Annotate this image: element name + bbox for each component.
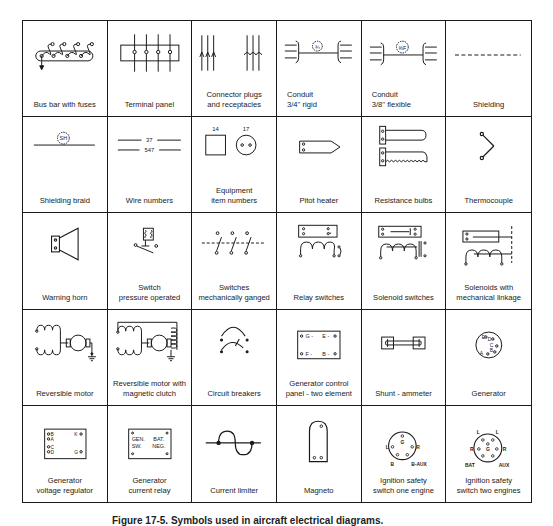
svg-text:¾: ¾ bbox=[315, 44, 320, 50]
cell-conduit-rigid: ¾ Conduit 3/4'' rigid bbox=[277, 21, 362, 117]
circuit-breakers-icon bbox=[192, 310, 276, 372]
symbol-label: Terminal panel bbox=[108, 100, 192, 110]
cell-generator-control-panel: G - E - F - B - Generator control panel … bbox=[277, 310, 362, 406]
symbol-label: Conduit 3/4'' rigid bbox=[277, 90, 361, 110]
symbol-label: Circuit breakers bbox=[192, 389, 276, 399]
cell-bus-bar-with-fuses: Bus bar with fuses bbox=[23, 21, 108, 117]
svg-text:R: R bbox=[503, 447, 507, 452]
current-limiter-icon bbox=[192, 406, 276, 468]
switches-mechanically-ganged-icon bbox=[192, 213, 276, 275]
cell-warning-horn: Warning horn bbox=[23, 213, 108, 309]
cell-generator: E D C B A Generator bbox=[446, 310, 531, 406]
cell-resistance-bulbs: Resistance bulbs bbox=[362, 117, 447, 213]
symbol-label: Switches mechanically ganged bbox=[192, 283, 276, 303]
solenoids-mechanical-linkage-icon bbox=[446, 213, 531, 275]
cell-connector-plugs: Connector plugs and receptacles bbox=[192, 21, 277, 117]
svg-text:37: 37 bbox=[146, 137, 153, 143]
connector-plugs-receptacles-icon bbox=[192, 21, 276, 83]
cell-thermocouple: Thermocouple bbox=[446, 117, 531, 213]
ignition-switch-two-engines-icon: L L R G R BAT AUX bbox=[446, 406, 531, 468]
magneto-icon bbox=[277, 406, 361, 468]
svg-text:F -: F - bbox=[306, 350, 313, 356]
symbol-label: Relay switches bbox=[277, 293, 361, 303]
symbol-label: Equipment item numbers bbox=[192, 186, 276, 206]
svg-text:G: G bbox=[486, 447, 490, 452]
cell-solenoids-linkage: Solenoids with mechanical linkage bbox=[446, 213, 531, 309]
cell-equipment-item-numbers: 14 17 Equipment item numbers bbox=[192, 117, 277, 213]
solenoid-switches-icon bbox=[362, 213, 446, 275]
svg-text:G: G bbox=[74, 450, 78, 455]
symbol-label: Switch pressure operated bbox=[108, 283, 192, 303]
svg-text:B -: B - bbox=[322, 350, 329, 356]
equipment-item-numbers-icon: 14 17 bbox=[192, 117, 276, 179]
wire-numbers-icon: 37 547 bbox=[108, 117, 192, 179]
svg-text:GEN.: GEN. bbox=[131, 436, 145, 442]
cell-wire-numbers: 37 547 Wire numbers bbox=[108, 117, 193, 213]
svg-text:L: L bbox=[477, 430, 480, 435]
svg-text:B-AUX: B-AUX bbox=[411, 461, 427, 466]
svg-text:D: D bbox=[51, 450, 55, 455]
symbol-grid: Bus bar with fuses Terminal panel Connec… bbox=[22, 20, 532, 503]
cell-pitot-heater: Pitot heater bbox=[277, 117, 362, 213]
symbol-label: Generator control panel - two element bbox=[277, 379, 361, 399]
svg-text:L: L bbox=[496, 430, 499, 435]
shielding-braid-icon: SH bbox=[23, 117, 107, 179]
symbol-label: Wire numbers bbox=[108, 196, 192, 206]
cell-generator-current-relay: GEN. BAT. SW. NEG. Generator current rel… bbox=[108, 406, 193, 502]
pitot-heater-icon bbox=[277, 117, 361, 179]
symbol-label: Bus bar with fuses bbox=[23, 100, 107, 110]
symbol-label: Ignition safety switch one engine bbox=[362, 476, 446, 496]
symbol-label: Magneto bbox=[277, 486, 361, 496]
svg-text:G -: G - bbox=[306, 333, 314, 339]
svg-text:SW.: SW. bbox=[131, 443, 141, 449]
svg-text:BAT.: BAT. bbox=[153, 436, 165, 442]
terminal-panel-icon bbox=[108, 21, 192, 83]
symbol-label: Pitot heater bbox=[277, 196, 361, 206]
symbol-label: Conduit 3/8'' flexible bbox=[362, 90, 446, 110]
svg-text:NEG.: NEG. bbox=[152, 443, 166, 449]
cell-generator-voltage-regulator: B A C D K G Generator voltage regulator bbox=[23, 406, 108, 502]
svg-text:A: A bbox=[480, 351, 484, 356]
svg-text:SH: SH bbox=[60, 135, 68, 141]
resistance-bulbs-icon bbox=[362, 117, 446, 179]
symbol-label: Shielding braid bbox=[23, 196, 107, 206]
shielding-icon bbox=[446, 21, 531, 83]
svg-text:547: 547 bbox=[144, 147, 154, 153]
symbol-label: Reversible motor bbox=[23, 389, 107, 399]
generator-control-panel-icon: G - E - F - B - bbox=[277, 310, 361, 372]
cell-shunt-ammeter: Shunt - ammeter bbox=[362, 310, 447, 406]
svg-text:AUX: AUX bbox=[499, 463, 510, 468]
generator-current-relay-icon: GEN. BAT. SW. NEG. bbox=[108, 406, 192, 468]
cell-reversible-motor-clutch: Reversible motor with magnetic clutch bbox=[108, 310, 193, 406]
svg-text:17: 17 bbox=[243, 126, 250, 132]
cell-shielding-braid: SH Shielding braid bbox=[23, 117, 108, 213]
symbol-label: Thermocouple bbox=[446, 196, 531, 206]
generator-voltage-regulator-icon: B A C D K G bbox=[23, 406, 107, 468]
figure-caption: Figure 17-5. Symbols used in aircraft el… bbox=[112, 515, 383, 526]
svg-text:⅜F: ⅜F bbox=[398, 45, 407, 51]
cell-ignition-switch-two-engines: L L R G R BAT AUX Ignition safety switch… bbox=[446, 406, 531, 502]
switch-pressure-operated-icon bbox=[108, 213, 192, 275]
reversible-motor-icon bbox=[23, 310, 107, 372]
warning-horn-icon bbox=[23, 213, 107, 275]
generator-icon: E D C B A bbox=[446, 310, 531, 372]
reversible-motor-clutch-icon bbox=[108, 310, 192, 372]
cell-conduit-flexible: ⅜F Conduit 3/8'' flexible bbox=[362, 21, 447, 117]
svg-text:E -: E - bbox=[322, 333, 329, 339]
cell-circuit-breakers: Circuit breakers bbox=[192, 310, 277, 406]
cell-solenoid-switches: Solenoid switches bbox=[362, 213, 447, 309]
conduit-flexible-icon: ⅜F bbox=[362, 21, 446, 83]
svg-text:B: B bbox=[390, 461, 394, 466]
cell-relay-switches: Relay switches bbox=[277, 213, 362, 309]
cell-switches-ganged: Switches mechanically ganged bbox=[192, 213, 277, 309]
cell-reversible-motor: Reversible motor bbox=[23, 310, 108, 406]
relay-switches-icon bbox=[277, 213, 361, 275]
cell-switch-pressure: Switch pressure operated bbox=[108, 213, 193, 309]
symbol-label: Generator voltage regulator bbox=[23, 476, 107, 496]
symbol-label: Reversible motor with magnetic clutch bbox=[108, 379, 192, 399]
symbol-label: Generator bbox=[446, 389, 531, 399]
svg-text:BAT: BAT bbox=[465, 463, 475, 468]
symbol-label: Ignition safety switch two engines bbox=[446, 476, 531, 496]
svg-text:G: G bbox=[400, 440, 404, 445]
symbol-label: Warning horn bbox=[23, 293, 107, 303]
